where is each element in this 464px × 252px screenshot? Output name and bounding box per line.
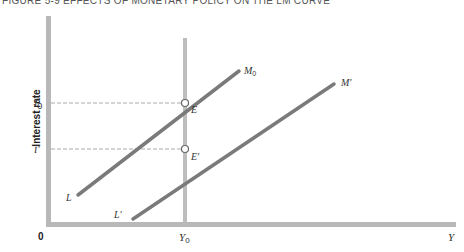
lm0-end-label: M0 <box>243 65 256 77</box>
lm-diagram: Interest rate i0 i′ 0 Y0 Y L M0 L′ M′ E … <box>0 0 464 252</box>
lmprime-curve <box>133 84 334 219</box>
y0-label: Y0 <box>179 231 190 245</box>
x-axis-end-label: Y <box>448 231 456 243</box>
iprime-label: i′ <box>34 142 40 156</box>
point-eprime-label: E′ <box>190 151 200 162</box>
lm0-curve <box>78 71 239 195</box>
lmprime-start-label: L′ <box>113 209 123 220</box>
origin-label: 0 <box>38 231 44 242</box>
x-axis <box>46 222 456 227</box>
lm0-start-label: L <box>65 192 72 203</box>
point-eprime-marker <box>182 146 189 153</box>
point-e-label: E <box>190 104 197 115</box>
y-axis <box>46 16 51 227</box>
y0-vertical-line <box>183 38 187 222</box>
lmprime-end-label: M′ <box>340 77 352 88</box>
point-e-marker <box>182 100 189 107</box>
